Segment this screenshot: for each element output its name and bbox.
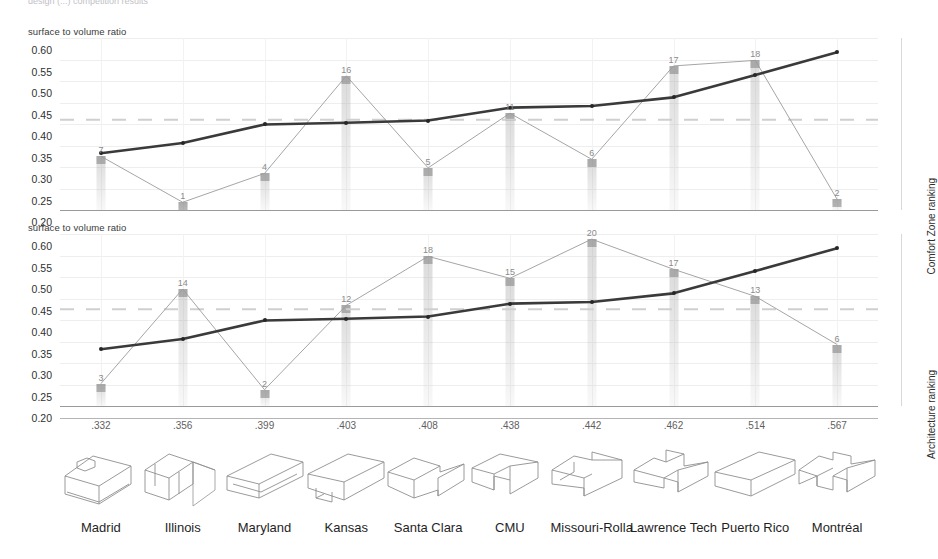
rank-value-label: 4 — [262, 162, 267, 172]
entry-name-label: Madrid — [81, 520, 121, 535]
x-axis-tick-label: .399 — [255, 420, 274, 431]
ratio-data-point — [508, 302, 512, 306]
chart-panel-comfort-zone: surface to volume ratio 0.600.550.500.45… — [0, 26, 938, 222]
right-axis-rule-comfort — [901, 38, 902, 210]
x-axis-tick-label: .567 — [827, 420, 846, 431]
x-axis-tick-label: .403 — [337, 420, 356, 431]
y-axis-tick-label: 0.60 — [32, 44, 52, 56]
entry-name-label: Illinois — [165, 520, 201, 535]
x-axis-tick-label: .332 — [91, 420, 110, 431]
y-axis-tick-label: 0.30 — [32, 173, 52, 185]
rank-value-label: 1 — [180, 191, 185, 201]
rank-value-label: 16 — [341, 65, 351, 75]
figure-stage: design (...) competition results surface… — [0, 0, 938, 559]
x-axis-tick-label: .438 — [500, 420, 519, 431]
y-axis-tick-label: 0.55 — [32, 66, 52, 78]
entry-name-label: Maryland — [238, 520, 291, 535]
y-axis-tick-label: 0.25 — [32, 391, 52, 403]
series-overlay — [60, 234, 878, 406]
y-axis-tick-label: 0.35 — [32, 348, 52, 360]
plot-area-comfort-zone: 71416511617182 — [60, 38, 878, 210]
y-axis-tick-label: 0.50 — [32, 87, 52, 99]
rank-value-label: 18 — [750, 49, 760, 59]
entry-name-label: Santa Clara — [394, 520, 463, 535]
ranking-series-line — [101, 239, 837, 390]
ratio-data-point — [426, 119, 430, 123]
ratio-series-line — [101, 248, 837, 349]
gridline — [60, 406, 878, 407]
x-axis-tick-label: .442 — [582, 420, 601, 431]
entry-name-row: MadridIllinoisMarylandKansasSanta ClaraC… — [0, 520, 938, 546]
entry-name-label: Montréal — [812, 520, 863, 535]
rank-value-label: 15 — [505, 267, 515, 277]
y-axis-title-comfort: surface to volume ratio — [28, 26, 126, 37]
y-axis-tick-labels-comfort: 0.600.550.500.450.400.350.300.250.20 — [0, 38, 56, 210]
y-axis-tick-label: 0.55 — [32, 262, 52, 274]
rank-value-label: 5 — [426, 157, 431, 167]
y-axis-tick-label: 0.35 — [32, 152, 52, 164]
y-axis-tick-labels-architecture: 0.600.550.500.450.400.350.300.250.20 — [0, 234, 56, 406]
ratio-series-line — [101, 52, 837, 153]
ratio-data-point — [590, 300, 594, 304]
y-axis-tick-label: 0.50 — [32, 283, 52, 295]
entry-name-label: Kansas — [325, 520, 368, 535]
y-axis-title-architecture: surface to volume ratio — [28, 222, 126, 233]
rank-value-label: 2 — [835, 188, 840, 198]
ratio-data-point — [835, 246, 839, 250]
rank-value-label: 18 — [423, 245, 433, 255]
ratio-data-point — [672, 291, 676, 295]
ratio-data-point — [590, 104, 594, 108]
rank-value-label: 6 — [589, 148, 594, 158]
rank-value-label: 2 — [262, 379, 267, 389]
entry-name-label: Lawrence Tech — [630, 520, 717, 535]
x-axis: .332.356.399.403.408.438.442.462.514.567 — [0, 418, 938, 438]
ratio-data-point — [344, 121, 348, 125]
x-axis-tick-label: .408 — [418, 420, 437, 431]
x-axis-tick-label: .514 — [746, 420, 765, 431]
entry-name-label: CMU — [495, 520, 525, 535]
ratio-data-point — [263, 318, 267, 322]
rank-value-label: 17 — [668, 55, 678, 65]
rank-value-label: 12 — [341, 294, 351, 304]
rank-value-label: 6 — [835, 334, 840, 344]
rank-value-label: 17 — [668, 258, 678, 268]
y-axis-tick-label: 0.40 — [32, 326, 52, 338]
rank-value-label: 20 — [587, 228, 597, 238]
ratio-data-point — [99, 347, 103, 351]
rank-value-label: 11 — [505, 102, 514, 112]
house-split-mass-sketch — [789, 436, 885, 520]
y-axis-tick-label: 0.40 — [32, 130, 52, 142]
y-axis-tick-label: 0.45 — [32, 305, 52, 317]
ratio-data-point — [753, 73, 757, 77]
series-overlay — [60, 38, 878, 210]
y-axis-tick-label: 0.60 — [32, 240, 52, 252]
rank-value-label: 13 — [750, 285, 760, 295]
building-sketch-row — [0, 436, 938, 520]
x-axis-rule — [60, 418, 878, 419]
entry-name-label: Missouri-Rolla — [551, 520, 633, 535]
plot-area-architecture: 31421218152017136 — [60, 234, 878, 406]
ratio-data-point — [426, 315, 430, 319]
y-axis-tick-label: 0.45 — [32, 109, 52, 121]
ratio-data-point — [753, 269, 757, 273]
ratio-data-point — [181, 337, 185, 341]
ratio-data-point — [263, 122, 267, 126]
rank-value-label: 3 — [98, 373, 103, 383]
right-axis-rule-architecture — [901, 234, 902, 406]
x-axis-tick-label: .462 — [664, 420, 683, 431]
clipped-figure-caption: design (...) competition results — [28, 0, 588, 8]
rank-value-label: 14 — [178, 278, 188, 288]
ratio-data-point — [181, 141, 185, 145]
chart-panel-architecture: surface to volume ratio 0.600.550.500.45… — [0, 222, 938, 418]
entry-name-label: Puerto Rico — [721, 520, 789, 535]
y-axis-tick-label: 0.30 — [32, 369, 52, 381]
ratio-data-point — [672, 95, 676, 99]
ratio-data-point — [835, 50, 839, 54]
x-axis-tick-label: .356 — [173, 420, 192, 431]
ratio-data-point — [344, 317, 348, 321]
rank-value-label: 7 — [98, 145, 103, 155]
y-axis-tick-label: 0.25 — [32, 195, 52, 207]
